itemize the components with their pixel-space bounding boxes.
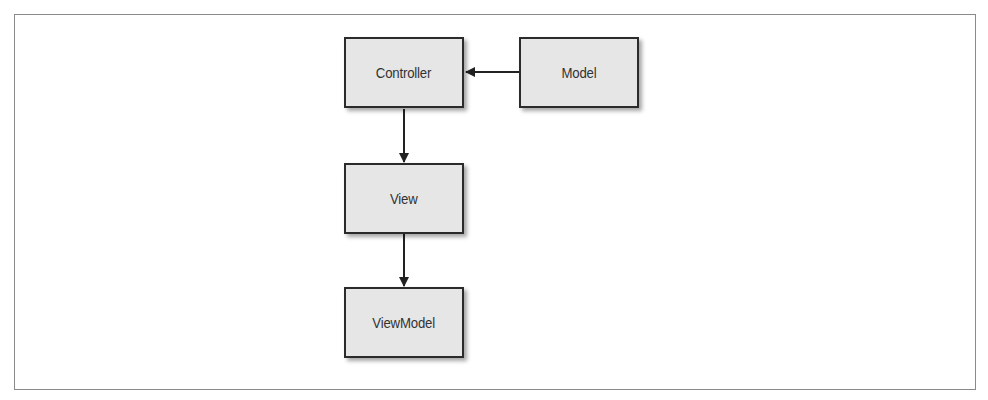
node-label: Controller (376, 64, 431, 81)
node-label: ViewModel (373, 314, 436, 331)
node-label: View (390, 190, 418, 207)
node-viewmodel: ViewModel (344, 287, 464, 358)
node-label: Model (561, 64, 596, 81)
node-view: View (344, 163, 464, 234)
diagram-frame (14, 14, 976, 390)
node-controller: Controller (344, 37, 464, 108)
node-model: Model (519, 37, 639, 108)
